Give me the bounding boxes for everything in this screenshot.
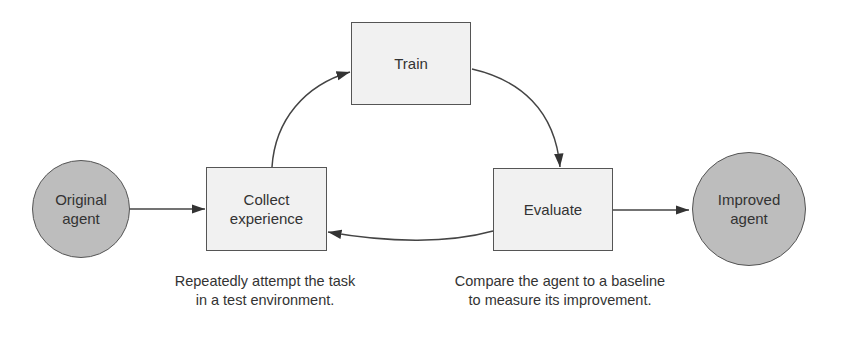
node-label: agent (55, 209, 107, 228)
edge-train-to-evaluate (472, 69, 560, 167)
caption-line: to measure its improvement. (420, 291, 700, 310)
node-improved-agent: Improved agent (692, 152, 806, 266)
edge-evaluate-to-collect (328, 231, 493, 240)
node-collect-experience: Collect experience (206, 167, 327, 251)
node-label: Collect (230, 190, 303, 209)
node-evaluate: Evaluate (493, 168, 613, 251)
caption-evaluate: Compare the agent to a baseline to measu… (420, 272, 700, 310)
caption-line: in a test environment. (130, 291, 400, 310)
node-label: Evaluate (524, 200, 582, 219)
caption-line: Compare the agent to a baseline (420, 272, 700, 291)
caption-line: Repeatedly attempt the task (130, 272, 400, 291)
caption-collect: Repeatedly attempt the task in a test en… (130, 272, 400, 310)
node-label: Train (394, 54, 428, 73)
node-label: experience (230, 209, 303, 228)
node-label: Improved (718, 190, 781, 209)
edge-collect-to-train (272, 72, 350, 167)
node-label: Original (55, 190, 107, 209)
node-train: Train (351, 22, 471, 105)
node-original-agent: Original agent (32, 160, 130, 258)
node-label: agent (718, 209, 781, 228)
